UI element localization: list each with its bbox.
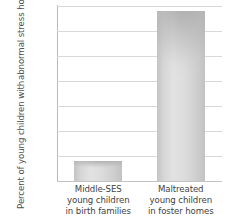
x-axis-label-group-0: Middle-SESyoung childrenin birth familie… <box>57 184 140 220</box>
x-axis-label-1-line-0: Maltreated <box>140 184 223 195</box>
bar-chart: Percent of young children with abnormal … <box>0 0 228 220</box>
plot-area <box>57 6 222 181</box>
x-axis-label-0-line-2: in birth families <box>57 206 140 217</box>
x-axis-category-labels: Middle-SESyoung childrenin birth familie… <box>57 184 222 220</box>
y-axis-title-line-1: Percent of young children with <box>16 81 26 209</box>
gridline-35 <box>57 6 222 7</box>
x-axis-label-1-line-1: young children <box>140 195 223 206</box>
x-axis-label-0-line-0: Middle-SES <box>57 184 140 195</box>
y-axis-title-line-2: abnormal stress hormone levels <box>16 0 26 80</box>
bar-0 <box>74 161 122 181</box>
x-axis-label-group-1: Maltreatedyoung childrenin foster homes <box>140 184 223 220</box>
x-axis-label-1-line-2: in foster homes <box>140 206 223 217</box>
y-axis-title: Percent of young children with abnormal … <box>6 0 36 170</box>
x-axis-label-0-line-1: young children <box>57 195 140 206</box>
bar-1 <box>157 11 205 181</box>
gridline-0 <box>57 181 222 182</box>
